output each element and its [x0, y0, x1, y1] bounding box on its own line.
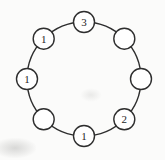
- node-label-left: 1: [24, 73, 30, 85]
- node-label-upper-left: 1: [41, 33, 47, 45]
- node-label-bottom: 1: [81, 130, 87, 142]
- ring-node-lower-right: 2: [114, 109, 135, 130]
- ring-node-upper-right: [114, 28, 135, 49]
- node-circle-upper-right: [114, 28, 135, 49]
- node-label-top: 3: [81, 16, 87, 28]
- ring-diagram: 32111: [0, 0, 165, 160]
- ring-node-lower-left: [33, 109, 54, 130]
- ring-node-right: [131, 69, 152, 90]
- node-label-lower-right: 2: [122, 113, 128, 125]
- node-circle-right: [131, 69, 152, 90]
- ring-node-upper-left: 1: [33, 28, 54, 49]
- ring-node-bottom: 1: [74, 126, 95, 147]
- ring-node-left: 1: [17, 69, 38, 90]
- node-circle-lower-left: [33, 109, 54, 130]
- ring-node-top: 3: [74, 12, 95, 33]
- ring-svg: 32111: [0, 0, 165, 160]
